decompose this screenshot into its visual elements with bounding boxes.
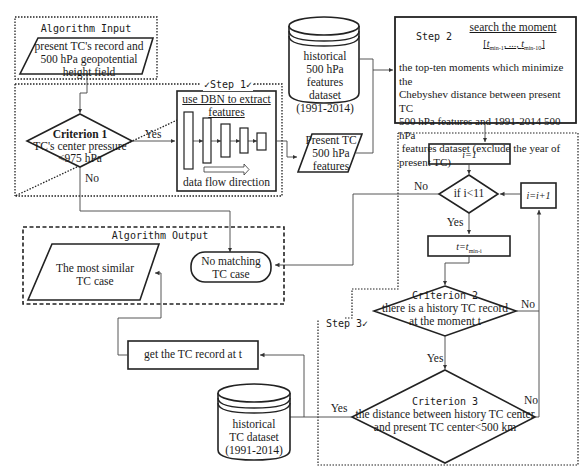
features-dataset-line: 500 hPa features: [289, 63, 361, 89]
present-features-line: 500 hPa: [302, 147, 360, 160]
no-matching-text: No matching TC case: [191, 255, 271, 281]
dbn-title-line: features: [178, 106, 275, 119]
criterion3-title: Criterion 3: [395, 395, 495, 408]
loop-condition-text: if i<11: [440, 187, 498, 200]
moment-bracket: ]: [541, 38, 544, 49]
assign-sub: min-i: [469, 248, 482, 254]
step2-title: search the moment: [458, 21, 568, 34]
features-dataset-text: historical 500 hPa features dataset (199…: [289, 50, 361, 115]
data-flow-label: data flow direction: [178, 176, 275, 189]
criterion3-line1: the distance between history TC center: [355, 408, 535, 421]
tc-dataset-line: (1991-2014): [218, 444, 290, 457]
most-similar-line: TC case: [40, 275, 150, 288]
no-matching-line: TC case: [191, 268, 271, 281]
no-matching-line: No matching: [191, 255, 271, 268]
criterion2-line2: at the moment t: [395, 315, 495, 328]
input-record-text: present TC's record and 500 hPa geopoten…: [28, 40, 150, 79]
step3-label-text: Step 3: [326, 318, 362, 329]
most-similar-text: The most similar TC case: [40, 262, 150, 288]
criterion3-no-label: No: [520, 394, 542, 407]
criterion2-no-label: No: [517, 298, 539, 311]
input-record-line: 500 hPa geopotential: [28, 53, 150, 66]
step2-label: Step 2: [414, 30, 454, 43]
step1-label-text: Step 1: [210, 79, 246, 90]
features-dataset-line: historical: [289, 50, 361, 63]
dbn-title: use DBN to extract features: [178, 93, 275, 119]
input-record-line: height field: [28, 66, 150, 79]
criterion2-line1: there is a history TC record: [380, 302, 510, 315]
output-section-title: Algorithm Output: [90, 229, 230, 242]
input-record-line: present TC's record and: [28, 40, 150, 53]
tc-dataset-line: TC dataset: [218, 431, 290, 444]
features-dataset-line: (1991-2014): [289, 102, 361, 115]
criterion1-no-label: No: [82, 172, 102, 185]
moment-sub: min-1: [489, 45, 503, 51]
moment-sub: min-10: [524, 45, 541, 51]
criterion2-title: Criterion 2: [395, 289, 495, 302]
step2-description-line: 500 hPa features and 1991-2014 500 hPa: [399, 115, 577, 142]
dbn-title-line: use DBN to extract: [178, 93, 275, 106]
moment-ellipsis: , ...,: [504, 38, 522, 49]
most-similar-line: The most similar: [40, 262, 150, 275]
step2-moment-set: [tmin-1, ..., tmin-10]: [470, 37, 558, 55]
tc-dataset-line: historical: [218, 418, 290, 431]
criterion1-line2: <975 hPa: [30, 152, 130, 165]
tc-dataset-text: historical TC dataset (1991-2014): [218, 418, 290, 457]
criterion1-yes-label: Yes: [140, 128, 166, 141]
assign-t: t=t: [456, 241, 468, 252]
features-dataset-line: dataset: [289, 89, 361, 102]
criterion3-yes-label: Yes: [328, 402, 350, 415]
check-icon: ✓: [246, 79, 252, 90]
step2-description-line: Chebyshev distance between present TC: [399, 88, 577, 115]
criterion2-yes-label: Yes: [424, 352, 446, 365]
get-record-text: get the TC record at t: [128, 348, 258, 361]
step3-label: Step 3✓: [322, 317, 372, 330]
present-features-line: Present TC: [302, 134, 360, 147]
step1-label: ✓Step 1✓: [203, 78, 253, 91]
criterion3-line2: and present TC center<500 km: [365, 421, 525, 434]
input-section-title: Algorithm Input: [16, 22, 156, 35]
assign-text: t=tmin-i: [428, 240, 510, 258]
present-features-text: Present TC 500 hPa features: [302, 134, 360, 173]
present-features-line: features: [302, 160, 360, 173]
step2-description-line: the top-ten moments which minimize the: [399, 61, 577, 88]
loop-yes-label: Yes: [443, 216, 467, 229]
loop-no-label: No: [410, 180, 432, 193]
init-text: i=1: [429, 148, 510, 161]
check-icon: ✓: [362, 318, 368, 329]
increment-text: i=i+1: [521, 189, 556, 202]
